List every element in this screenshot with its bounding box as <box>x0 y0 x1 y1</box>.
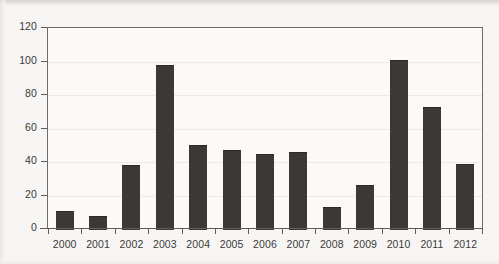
x-tick <box>81 229 82 234</box>
bar-2003 <box>156 65 174 230</box>
bar-chart-figure: 020406080100120 200020012002200320042005… <box>0 0 499 264</box>
y-tick-20 <box>41 195 47 196</box>
x-tick <box>282 229 283 234</box>
scan-edge-top <box>0 0 499 6</box>
y-tick-120 <box>41 27 47 28</box>
x-tick <box>115 229 116 234</box>
bar-2010 <box>390 60 408 230</box>
bar-2007 <box>289 152 307 230</box>
plot-area <box>47 27 483 228</box>
x-tick <box>449 229 450 234</box>
x-tick <box>415 229 416 234</box>
x-axis-label-2012: 2012 <box>442 238 488 250</box>
x-tick <box>315 229 316 234</box>
x-tick <box>348 229 349 234</box>
y-tick-40 <box>41 161 47 162</box>
bar-2004 <box>189 145 207 230</box>
bar-2005 <box>223 150 241 230</box>
x-tick <box>148 229 149 234</box>
x-tick <box>382 229 383 234</box>
bar-2012 <box>456 164 474 230</box>
bar-2002 <box>122 165 140 230</box>
y-tick-100 <box>41 61 47 62</box>
y-axis-label: 0 <box>0 221 37 233</box>
x-tick <box>215 229 216 234</box>
y-tick-60 <box>41 128 47 129</box>
y-axis-label: 80 <box>0 87 37 99</box>
y-tick-0 <box>41 228 47 229</box>
y-axis-label: 40 <box>0 154 37 166</box>
x-tick <box>48 229 49 234</box>
bar-2011 <box>423 107 441 230</box>
x-tick <box>182 229 183 234</box>
y-tick-80 <box>41 94 47 95</box>
gridline-60 <box>48 129 482 130</box>
y-axis-label: 60 <box>0 121 37 133</box>
bar-2008 <box>323 207 341 230</box>
x-tick <box>248 229 249 234</box>
y-axis-label: 100 <box>0 54 37 66</box>
x-axis-line <box>40 228 483 229</box>
gridline-100 <box>48 62 482 63</box>
gridline-80 <box>48 95 482 96</box>
y-axis-label: 120 <box>0 20 37 32</box>
bar-2006 <box>256 154 274 230</box>
y-axis-label: 20 <box>0 188 37 200</box>
x-tick <box>482 229 483 234</box>
bar-2009 <box>356 185 374 230</box>
scan-edge-bottom <box>0 259 499 264</box>
